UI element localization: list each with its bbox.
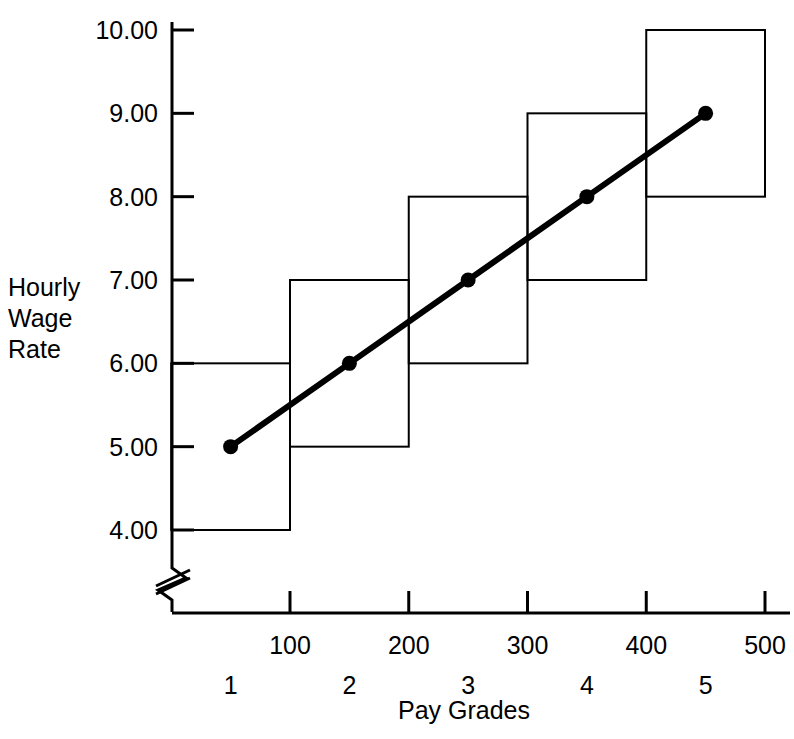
y-axis-tick-labels: 10.009.008.007.006.005.004.00 bbox=[95, 16, 158, 544]
y-tick-label-4.00: 4.00 bbox=[109, 516, 158, 544]
y-tick-label-7.00: 7.00 bbox=[109, 266, 158, 294]
wage-structure-chart: 10.009.008.007.006.005.004.00 1002003004… bbox=[0, 0, 794, 739]
x-tick-label-400: 400 bbox=[625, 631, 667, 659]
grade-label-2: 2 bbox=[342, 671, 356, 699]
y-axis-title-line-3: Rate bbox=[8, 335, 61, 363]
y-tick-label-5.00: 5.00 bbox=[109, 433, 158, 461]
chart-canvas: 10.009.008.007.006.005.004.00 1002003004… bbox=[0, 0, 794, 739]
x-tick-label-100: 100 bbox=[269, 631, 311, 659]
grade-label-1: 1 bbox=[224, 671, 238, 699]
y-axis-title-line-2: Wage bbox=[8, 304, 72, 332]
y-tick-label-10.00: 10.00 bbox=[95, 16, 158, 44]
data-point-grade-1 bbox=[223, 439, 238, 454]
data-point-grade-3 bbox=[461, 273, 476, 288]
data-point-grade-5 bbox=[698, 106, 713, 121]
x-tick-label-500: 500 bbox=[744, 631, 786, 659]
x-axis-point-labels: 100200300400500 bbox=[269, 631, 786, 659]
grade-label-5: 5 bbox=[699, 671, 713, 699]
x-axis-grade-labels: 12345 bbox=[224, 671, 713, 699]
data-point-grade-2 bbox=[342, 356, 357, 371]
y-axis-title-line-1: Hourly bbox=[8, 273, 81, 301]
x-axis-title: Pay Grades bbox=[398, 696, 530, 724]
y-axis-ticks bbox=[172, 30, 194, 530]
grade-label-4: 4 bbox=[580, 671, 594, 699]
y-tick-label-9.00: 9.00 bbox=[109, 99, 158, 127]
x-tick-label-300: 300 bbox=[507, 631, 549, 659]
axis-break-icon bbox=[156, 556, 190, 612]
grade-label-3: 3 bbox=[461, 671, 475, 699]
x-axis-ticks bbox=[290, 591, 765, 613]
y-tick-label-6.00: 6.00 bbox=[109, 349, 158, 377]
data-point-grade-4 bbox=[579, 189, 594, 204]
x-tick-label-200: 200 bbox=[388, 631, 430, 659]
y-tick-label-8.00: 8.00 bbox=[109, 183, 158, 211]
